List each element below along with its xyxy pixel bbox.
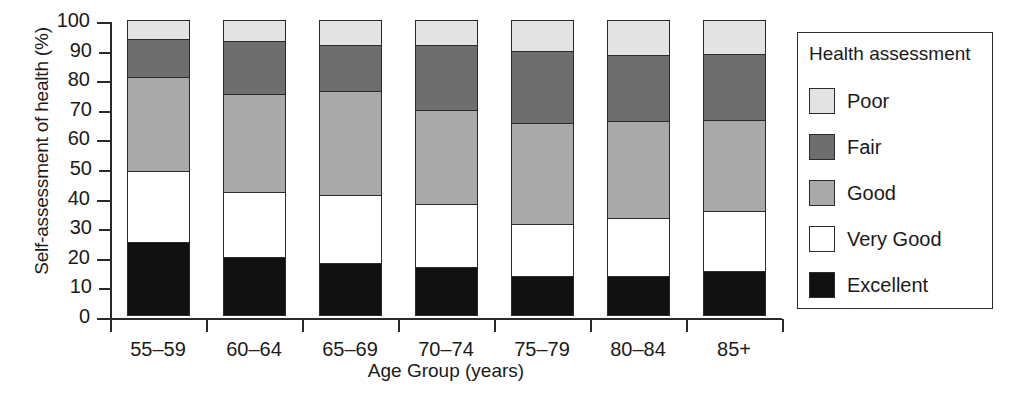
bar-segment-poor[interactable]: [704, 21, 765, 55]
legend-item-poor[interactable]: Poor: [809, 78, 986, 124]
bar-segment-excellent[interactable]: [512, 277, 573, 315]
bar-segment-excellent[interactable]: [224, 258, 285, 315]
legend-item-label: Good: [847, 182, 896, 205]
bar-60–64[interactable]: [223, 20, 286, 316]
bar-segment-excellent[interactable]: [608, 277, 669, 315]
x-axis-tick-label: 60–64: [206, 338, 302, 360]
y-axis-tick: 90: [99, 52, 112, 54]
bar-segment-fair[interactable]: [608, 56, 669, 122]
bar-segment-poor[interactable]: [128, 21, 189, 40]
bar-segment-good[interactable]: [224, 95, 285, 194]
legend-swatch: [809, 272, 835, 298]
y-axis-tick: 20: [97, 259, 112, 261]
bar-segment-very-good[interactable]: [608, 219, 669, 276]
x-axis-tick-label: 85+: [686, 338, 782, 360]
x-axis-tick-label: 55–59: [110, 338, 206, 360]
bar-segment-very-good[interactable]: [128, 172, 189, 243]
bar-segment-very-good[interactable]: [512, 225, 573, 276]
y-axis-tick-label: 90: [32, 40, 92, 60]
bar-segment-excellent[interactable]: [704, 272, 765, 315]
y-axis-tick: 80: [97, 81, 112, 83]
bar-segment-poor[interactable]: [416, 21, 477, 46]
y-axis-tick-label: 100: [30, 10, 90, 30]
bar-segment-excellent[interactable]: [128, 243, 189, 315]
bar-segment-good[interactable]: [128, 78, 189, 172]
x-axis-spine: [110, 318, 782, 320]
legend-swatch: [809, 88, 835, 114]
bar-segment-poor[interactable]: [608, 21, 669, 56]
bar-segment-fair[interactable]: [416, 46, 477, 111]
x-axis-tick-label: 70–74: [398, 338, 494, 360]
y-axis-tick: 100: [97, 22, 112, 24]
legend-swatch: [809, 226, 835, 252]
y-axis-tick: 10: [99, 288, 112, 290]
y-axis-tick-label: 40: [30, 188, 90, 208]
legend-item-label: Fair: [847, 136, 881, 159]
y-axis-tick: 60: [97, 140, 112, 142]
y-axis-tick: 70: [99, 111, 112, 113]
y-axis-tick-label: 80: [30, 69, 90, 89]
bar-segment-poor[interactable]: [224, 21, 285, 42]
bar-segment-good[interactable]: [416, 111, 477, 205]
y-axis-tick-label: 70: [32, 99, 92, 119]
legend-item-label: Excellent: [847, 274, 928, 297]
legend-item-good[interactable]: Good: [809, 170, 986, 216]
bar-segment-fair[interactable]: [512, 52, 573, 124]
x-axis-tick: [302, 319, 304, 332]
bar-65–69[interactable]: [319, 20, 382, 316]
legend-item-label: Very Good: [847, 228, 942, 251]
x-axis-tick: [686, 319, 688, 332]
x-axis-tick: [494, 319, 496, 332]
bar-segment-fair[interactable]: [320, 46, 381, 92]
x-axis-tick-label: 80–84: [590, 338, 686, 360]
x-axis-tick: [782, 319, 784, 332]
legend-title: Health assessment: [809, 43, 971, 65]
y-axis-tick: 40: [97, 200, 112, 202]
x-axis-tick-label: 65–69: [302, 338, 398, 360]
legend-items: PoorFairGoodVery GoodExcellent: [809, 78, 986, 308]
bar-segment-very-good[interactable]: [416, 205, 477, 268]
bar-segment-fair[interactable]: [704, 55, 765, 121]
y-axis-tick: 50: [99, 170, 112, 172]
bar-75–79[interactable]: [511, 20, 574, 316]
bar-segment-fair[interactable]: [224, 42, 285, 95]
bar-segment-good[interactable]: [512, 124, 573, 225]
legend-box: Health assessment PoorFairGoodVery GoodE…: [797, 32, 993, 309]
y-axis-tick-label: 30: [32, 217, 92, 237]
plot-area: 0102030405060708090100 55–5960–6465–6970…: [110, 22, 782, 318]
bar-segment-poor[interactable]: [512, 21, 573, 52]
stacked-bar-chart-figure: Self-assessment of health (%) 0102030405…: [0, 0, 1014, 405]
bar-segment-excellent[interactable]: [320, 264, 381, 315]
legend-item-label: Poor: [847, 90, 889, 113]
bar-70–74[interactable]: [415, 20, 478, 316]
bar-segment-very-good[interactable]: [320, 196, 381, 264]
bar-segment-very-good[interactable]: [704, 212, 765, 272]
bar-segment-good[interactable]: [320, 92, 381, 196]
legend-item-excellent[interactable]: Excellent: [809, 262, 986, 308]
bar-85+[interactable]: [703, 20, 766, 316]
x-axis-tick-label: 75–79: [494, 338, 590, 360]
x-axis-title: Age Group (years): [110, 360, 782, 382]
bar-55–59[interactable]: [127, 20, 190, 316]
bar-80–84[interactable]: [607, 20, 670, 316]
bar-segment-good[interactable]: [704, 121, 765, 212]
y-axis-tick: 30: [99, 229, 112, 231]
bar-segment-excellent[interactable]: [416, 268, 477, 315]
y-axis-tick-label: 0: [30, 306, 90, 326]
legend-swatch: [809, 134, 835, 160]
legend-swatch: [809, 180, 835, 206]
bar-segment-very-good[interactable]: [224, 193, 285, 258]
bar-segment-poor[interactable]: [320, 21, 381, 46]
x-axis-tick: [398, 319, 400, 332]
y-axis-tick-label: 20: [30, 247, 90, 267]
legend-item-fair[interactable]: Fair: [809, 124, 986, 170]
y-axis-tick-label: 10: [32, 276, 92, 296]
bar-segment-fair[interactable]: [128, 40, 189, 78]
y-axis-tick-label: 60: [30, 128, 90, 148]
x-axis-tick: [590, 319, 592, 332]
x-axis-tick: [206, 319, 208, 332]
y-axis-tick-label: 50: [32, 158, 92, 178]
x-axis-tick: [110, 319, 112, 332]
bar-segment-good[interactable]: [608, 122, 669, 219]
legend-item-very-good[interactable]: Very Good: [809, 216, 986, 262]
